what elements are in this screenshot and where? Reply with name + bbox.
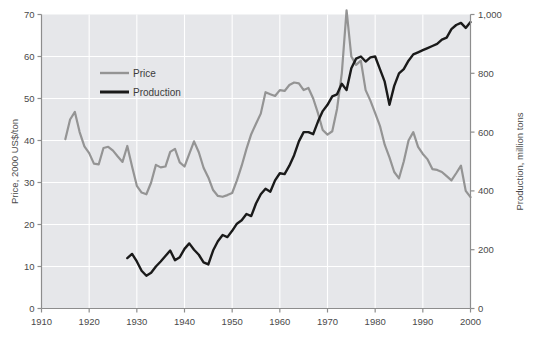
- right-tick-label-800: 800: [478, 68, 494, 79]
- x-tick-label-1950: 1950: [222, 316, 243, 327]
- right-tick-label-200: 200: [478, 244, 494, 255]
- x-tick-label-1990: 1990: [412, 316, 433, 327]
- x-tick-label-1970: 1970: [317, 316, 338, 327]
- right-tick-label-600: 600: [478, 127, 494, 138]
- x-tick-label-1920: 1920: [79, 316, 100, 327]
- x-tick-label-1940: 1940: [174, 316, 195, 327]
- right-tick-label-0: 0: [478, 303, 483, 314]
- left-tick-label-60: 60: [24, 51, 35, 62]
- x-tick-label-1960: 1960: [269, 316, 290, 327]
- left-tick-label-50: 50: [24, 93, 35, 104]
- left-tick-label-40: 40: [24, 135, 35, 146]
- x-tick-label-1980: 1980: [365, 316, 386, 327]
- plot-area-background: [42, 15, 471, 309]
- legend-label-price: Price: [133, 68, 156, 79]
- x-tick-label-1930: 1930: [126, 316, 147, 327]
- right-tick-label-400: 400: [478, 185, 494, 196]
- legend-label-production: Production: [133, 87, 181, 98]
- dual-axis-line-chart: 010203040506070 02004006008001,000 19101…: [0, 0, 533, 353]
- left-tick-label-0: 0: [29, 303, 34, 314]
- chart-container: 010203040506070 02004006008001,000 19101…: [0, 0, 533, 353]
- left-tick-label-70: 70: [24, 9, 35, 20]
- x-tick-label-1910: 1910: [31, 316, 52, 327]
- x-tick-label-2000: 2000: [460, 316, 481, 327]
- left-tick-label-10: 10: [24, 261, 35, 272]
- right-axis-title: Production, million tons: [514, 112, 525, 210]
- left-axis-title: Price, 2000 US$/ton: [9, 119, 20, 204]
- left-tick-label-20: 20: [24, 219, 35, 230]
- left-tick-label-30: 30: [24, 177, 35, 188]
- right-tick-label-1000: 1,000: [478, 9, 502, 20]
